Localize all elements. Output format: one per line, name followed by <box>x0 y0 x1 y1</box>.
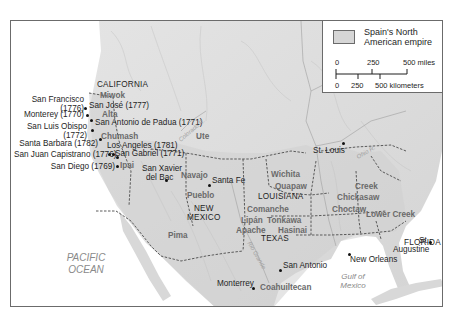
tribe-miwok: Miwok <box>100 91 125 100</box>
place-st-augustine-line2: Augustine <box>393 245 429 254</box>
city-dot <box>429 241 432 244</box>
place-san-jose: San José (1777) <box>89 101 149 110</box>
tribe-comanche: Comanche <box>247 205 289 214</box>
map-legend: Spain's North American empire 0 250 500 … <box>322 20 443 93</box>
city-dot <box>208 184 211 187</box>
place-san-xavier-line1: San Xavier <box>142 164 182 173</box>
city-dot <box>116 165 119 168</box>
place-monterrey: Monterrey <box>217 279 254 288</box>
scale-km-250: 250 <box>351 82 364 90</box>
tribe-hasinai: Hasinai <box>278 226 307 235</box>
place-san-antonio: San Antonio <box>283 261 327 270</box>
city-dot <box>116 156 119 159</box>
scale-km-500: 500 kilometers <box>375 82 424 90</box>
scale-km-0: 0 <box>335 82 339 90</box>
place-san-gabriel: San Gabriel (1771) <box>115 149 184 158</box>
place-st-augustine-line1: St. <box>419 236 429 245</box>
tribe-ipai: Ipai <box>120 161 134 170</box>
region-new-mexico-line2: MEXICO <box>187 213 221 222</box>
city-dot <box>86 114 89 117</box>
tribe-pima: Pima <box>168 231 188 240</box>
place-san-xavier-line2: del Bac <box>146 173 173 182</box>
label-pacific-line2: OCEAN <box>56 264 116 275</box>
label-gulf-line1: Gulf of <box>333 272 373 281</box>
label-gulf-line2: Mexico <box>333 281 373 290</box>
tribe-wichita: Wichita <box>271 170 300 179</box>
label-pacific-line1: PACIFIC <box>56 252 116 263</box>
city-dot <box>99 138 102 141</box>
place-santa-barbara: Santa Barbara (1782) <box>14 139 98 148</box>
city-dot <box>91 129 94 132</box>
region-louisiana: LOUISIANA <box>258 192 303 201</box>
tribe-lipan: Lipán <box>241 216 263 225</box>
place-st-louis: St. Louis <box>313 146 345 155</box>
region-new-mexico-line1: NEW <box>194 204 214 213</box>
tribe-apache: Apache <box>236 226 266 235</box>
place-santa-fe: Santa Fe <box>212 176 245 185</box>
tribe-quapaw: Quapaw <box>275 182 307 191</box>
place-san-francisco-line1: San Francisco <box>14 95 84 104</box>
place-san-luis-obispo-line1: San Luis Obispo <box>14 122 87 131</box>
place-san-diego: San Diego (1769) <box>14 162 115 171</box>
tribe-ute: Ute <box>196 132 209 141</box>
tribe-chickasaw: Chickasaw <box>337 193 379 202</box>
place-san-antonio-de-padua: San Antonio de Padua (1771) <box>95 118 202 127</box>
tribe-tonkawa: Tonkawa <box>267 216 301 225</box>
tribe-lower-creek: Lower Creek <box>366 210 415 219</box>
tribe-creek: Creek <box>355 182 378 191</box>
place-monterey: Monterey (1770) <box>14 110 84 119</box>
tribe-pueblo: Pueblo <box>187 191 214 200</box>
tribe-choctaw: Choctaw <box>332 205 366 214</box>
tribe-navajo: Navajo <box>181 171 208 180</box>
place-new-orleans: New Orleans <box>350 255 397 264</box>
city-dot <box>165 179 168 182</box>
city-dot <box>342 142 345 145</box>
region-texas: TEXAS <box>261 234 289 243</box>
region-california: CALIFORNIA <box>97 80 148 89</box>
tribe-coahuiltecan: Coahuiltecan <box>260 283 311 292</box>
city-dot <box>84 107 87 110</box>
place-san-juan-capistrano: San Juan Capistrano (1776) <box>14 150 115 159</box>
city-dot <box>90 119 93 122</box>
tribe-chumash: Chumash <box>101 132 138 141</box>
city-dot <box>279 269 282 272</box>
